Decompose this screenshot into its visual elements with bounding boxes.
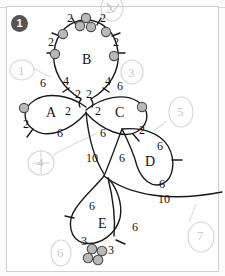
node-circle xyxy=(58,29,67,38)
edge-label: 3 xyxy=(108,244,114,256)
edge-label: 6 xyxy=(100,127,106,139)
figure-number-badge: 1 xyxy=(11,15,28,32)
pencil-annotation: 4 xyxy=(37,156,44,169)
node-circle xyxy=(19,103,28,112)
ring-label-d: D xyxy=(145,155,155,169)
edge-label: 6 xyxy=(157,140,163,152)
edge-label: 2 xyxy=(95,105,101,117)
node-circle xyxy=(50,49,59,58)
pencil-annotation: 3 xyxy=(128,66,135,79)
edge-label: 6 xyxy=(119,152,125,164)
pencil-annotation: 2 xyxy=(106,2,113,15)
node-circle xyxy=(87,244,97,254)
node-circle xyxy=(137,102,146,111)
edge-label: 2 xyxy=(48,36,54,48)
pencil-annotation: 5 xyxy=(177,105,184,118)
edge-label: 6 xyxy=(89,200,95,212)
edge-label: 2 xyxy=(139,124,145,136)
pencil-annotation: 7 xyxy=(197,229,204,242)
edge-label: 2 xyxy=(23,118,29,130)
node-circle xyxy=(101,27,110,36)
ring-label-a: A xyxy=(46,106,56,120)
edge-label: 2 xyxy=(86,88,92,100)
edge-label: 2 xyxy=(67,12,73,24)
edge-label: 10 xyxy=(86,152,98,164)
ring-label-b: B xyxy=(82,53,91,67)
edge-label: 2 xyxy=(75,88,81,100)
node-circle xyxy=(109,51,118,60)
edge-label: 4 xyxy=(105,75,111,87)
node-circle xyxy=(83,253,93,263)
edge-label: 10 xyxy=(158,193,170,205)
figure-canvas: 1 B A C D E 2 2 2 2 2 4 4 6 6 2 2 2 2 6 … xyxy=(0,0,225,276)
edge-label: 2 xyxy=(113,36,119,48)
node-circle xyxy=(75,21,84,30)
e-tick-right xyxy=(116,240,125,244)
edge-label: 4 xyxy=(63,75,69,87)
edge-label: 6 xyxy=(40,77,46,89)
node-circle xyxy=(97,246,107,256)
pencil-annotation: 1 xyxy=(18,64,25,77)
edge-label: 6 xyxy=(117,80,123,92)
edge-label: 6 xyxy=(159,178,165,190)
node-circle xyxy=(86,22,95,31)
e-tick-left xyxy=(65,216,74,218)
edge-label: 6 xyxy=(57,127,63,139)
pencil-annotation: 6 xyxy=(57,246,64,259)
node-circle xyxy=(81,13,90,22)
ring-label-e: E xyxy=(98,217,107,231)
node-circle xyxy=(93,255,103,265)
edge-label: 2 xyxy=(65,105,71,117)
edge-label: 3 xyxy=(81,235,87,247)
ring-label-c: C xyxy=(115,106,124,120)
edge-label: 6 xyxy=(132,221,138,233)
